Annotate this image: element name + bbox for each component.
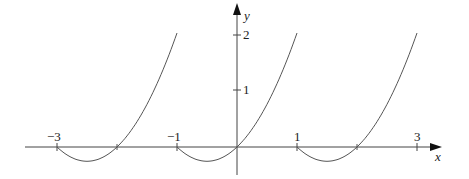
x-tick-label: 1 [294, 129, 301, 144]
function-graph: −3 −1 1 3 1 2 x y [0, 0, 469, 179]
curve-piece [297, 33, 417, 161]
y-axis-arrow-icon [233, 3, 241, 15]
x-tick-label: −1 [167, 129, 181, 144]
y-tick-label: 2 [243, 27, 250, 42]
y-tick-label: 1 [243, 82, 250, 97]
y-axis-label: y [242, 8, 250, 23]
x-tick-label: 3 [414, 129, 421, 144]
curve-piece [57, 33, 177, 161]
x-axis-label: x [434, 149, 441, 164]
x-tick-label: −3 [47, 129, 61, 144]
